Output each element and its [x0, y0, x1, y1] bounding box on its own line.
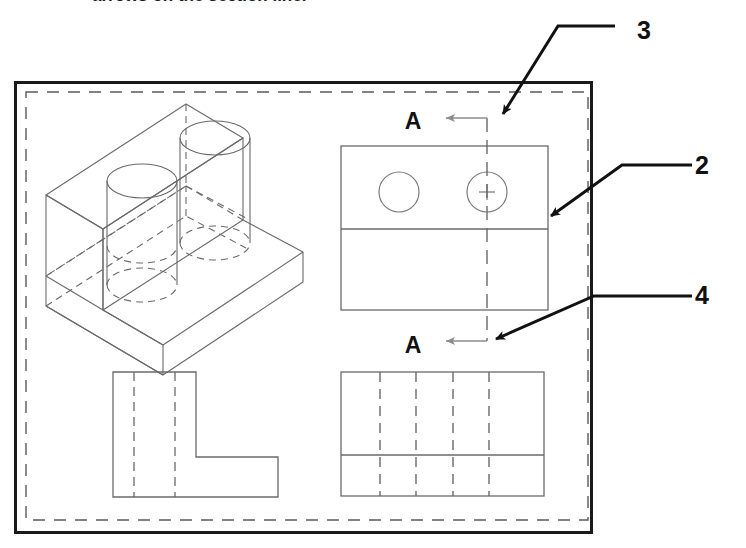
iso-hidden-base-back-2	[186, 186, 246, 218]
top-view-with-holes	[341, 146, 548, 310]
callout-2-leader	[551, 165, 692, 216]
iso-base-bottom-left	[46, 306, 163, 375]
top-view-outline	[341, 146, 548, 310]
iso-hidden-back-right	[186, 186, 243, 220]
section-label-a-bottom: A	[405, 332, 422, 358]
iso-hole-2-bottom-arc	[180, 243, 250, 260]
callout-3-number: 3	[637, 16, 651, 44]
drawing-frame-inner-dashed	[26, 92, 588, 520]
iso-hole-2-top-ellipse	[180, 121, 250, 155]
l-shaped-side-view	[113, 372, 278, 497]
iso-base-top-face	[103, 220, 303, 345]
callout-4-number: 4	[695, 281, 709, 309]
iso-wall-left-face	[46, 195, 103, 310]
iso-hidden-base-edge	[46, 216, 246, 306]
callout-4-leader	[496, 296, 692, 339]
callout-2-number: 2	[695, 151, 709, 179]
iso-wall-right-face	[103, 138, 243, 310]
technical-drawing-page: arrows on the section line.	[0, 0, 746, 548]
drawing-canvas: A A 3	[0, 0, 746, 548]
iso-base-edges	[103, 220, 303, 375]
iso-base-diagonal	[103, 252, 303, 345]
front-view-sectioned	[341, 372, 544, 496]
iso-hole-1-bottom-arc	[107, 285, 177, 302]
isometric-hidden-lines	[46, 104, 250, 306]
callout-3-leader	[503, 26, 615, 114]
iso-wall-top-face	[46, 104, 243, 229]
side-view-outline	[113, 372, 278, 497]
callout-leaders	[496, 26, 692, 339]
iso-hole-1-top-ellipse	[107, 164, 177, 198]
iso-base-front-edge	[46, 276, 163, 375]
front-view-outline	[341, 372, 544, 496]
isometric-pictorial-view	[46, 104, 303, 375]
iso-hole-2-bottom-arc-hidden	[180, 226, 250, 243]
drawing-frame-outer	[16, 83, 592, 533]
top-view-hole-left	[379, 172, 419, 212]
iso-hole-1-bottom-arc-hidden	[107, 268, 177, 285]
section-label-a-top: A	[405, 108, 422, 134]
